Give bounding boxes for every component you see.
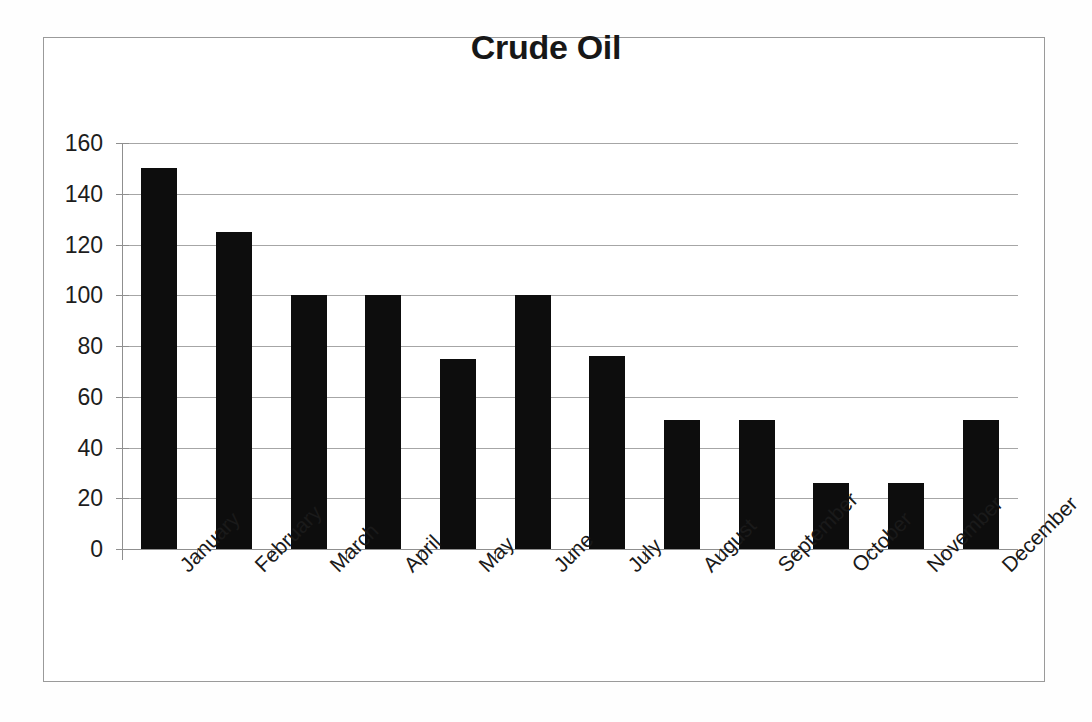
y-axis-tick-label: 0 bbox=[41, 536, 103, 563]
gridline bbox=[122, 245, 1018, 246]
y-axis-tick bbox=[116, 143, 129, 144]
gridline bbox=[122, 397, 1018, 398]
y-axis-tick-label: 100 bbox=[41, 282, 103, 309]
y-axis-tick bbox=[116, 448, 129, 449]
y-axis-tick-label: 160 bbox=[41, 130, 103, 157]
bar bbox=[515, 295, 551, 549]
y-axis-tick bbox=[116, 194, 129, 195]
gridline bbox=[122, 194, 1018, 195]
category-axis-label: July bbox=[623, 560, 640, 577]
y-axis-tick-label: 80 bbox=[41, 333, 103, 360]
category-axis-label: June bbox=[549, 560, 566, 577]
bar bbox=[664, 420, 700, 549]
bar bbox=[216, 232, 252, 549]
category-axis-label: December bbox=[997, 560, 1014, 577]
plot-area bbox=[122, 143, 1018, 549]
category-axis-label: May bbox=[474, 560, 491, 577]
bar bbox=[365, 295, 401, 549]
bar bbox=[141, 168, 177, 549]
y-axis-tick bbox=[116, 346, 129, 347]
y-axis-tick bbox=[116, 245, 129, 246]
y-axis-tick-label: 120 bbox=[41, 231, 103, 258]
category-axis-label: September bbox=[773, 560, 790, 577]
y-axis-tick-label: 40 bbox=[41, 434, 103, 461]
y-axis-tick-label: 60 bbox=[41, 383, 103, 410]
category-axis-label: November bbox=[922, 560, 939, 577]
category-axis-label: April bbox=[399, 560, 416, 577]
y-axis-tick bbox=[116, 549, 129, 550]
y-axis-tick bbox=[116, 295, 129, 296]
bar bbox=[440, 359, 476, 549]
chart-page: Crude Oil 160140120100806040200 JanuaryF… bbox=[0, 0, 1092, 722]
gridline bbox=[122, 143, 1018, 144]
gridline bbox=[122, 448, 1018, 449]
y-axis-tick bbox=[116, 498, 129, 499]
category-axis-label: August bbox=[698, 560, 715, 577]
bar bbox=[589, 356, 625, 549]
y-axis-tick-label: 20 bbox=[41, 485, 103, 512]
y-axis-tick-labels: 160140120100806040200 bbox=[41, 0, 103, 722]
y-axis-tick bbox=[116, 397, 129, 398]
category-axis-labels: JanuaryFebruaryMarchAprilMayJuneJulyAugu… bbox=[122, 560, 1018, 660]
category-axis-tick bbox=[122, 549, 123, 560]
category-axis-label: February bbox=[250, 560, 267, 577]
gridline bbox=[122, 295, 1018, 296]
category-axis-label: October bbox=[847, 560, 864, 577]
gridline bbox=[122, 498, 1018, 499]
gridline bbox=[122, 346, 1018, 347]
chart-title: Crude Oil bbox=[0, 28, 1092, 67]
y-axis-tick-label: 140 bbox=[41, 180, 103, 207]
category-axis-label: January bbox=[175, 560, 192, 577]
category-axis-label: March bbox=[325, 560, 342, 577]
